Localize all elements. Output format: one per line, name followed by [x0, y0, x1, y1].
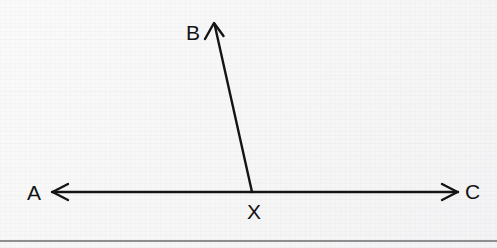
- vertex-label-x: X: [247, 201, 261, 222]
- ray-xb: [215, 24, 253, 192]
- vertex-label-c: C: [465, 181, 480, 202]
- geometry-figure: A B C X: [0, 0, 497, 248]
- vertex-label-b: B: [186, 22, 200, 43]
- bottom-divider: [0, 240, 497, 242]
- ray-xb-group: [205, 23, 252, 192]
- line-ac-group: [52, 184, 458, 200]
- vertex-label-a: A: [27, 182, 41, 203]
